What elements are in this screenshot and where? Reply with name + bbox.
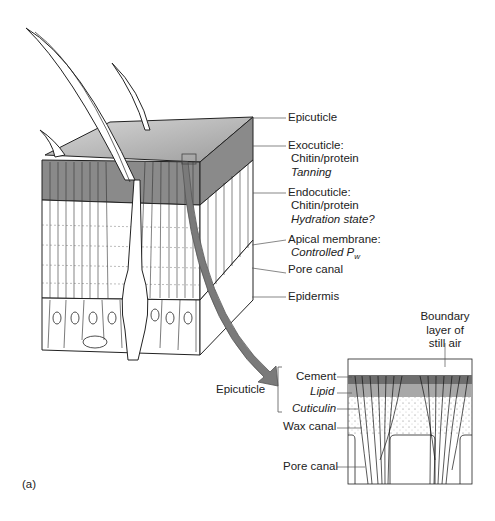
figure-label: (a) (22, 478, 36, 492)
cuticle-diagram (0, 0, 495, 521)
label-inset-pore-canal: Pore canal (283, 460, 338, 474)
label-exocuticle-composition: Chitin/protein (291, 152, 359, 166)
label-apical-membrane-property: Controlled Pw (291, 246, 360, 264)
label-exocuticle-title: Exocuticle: (288, 139, 344, 153)
label-endocuticle-composition: Chitin/protein (291, 199, 359, 213)
label-exocuticle-property: Tanning (291, 166, 332, 180)
label-cement: Cement (296, 370, 336, 384)
label-endocuticle-title: Endocuticle: (288, 186, 351, 200)
label-endocuticle-property: Hydration state? (291, 213, 375, 227)
label-epidermis: Epidermis (288, 290, 339, 304)
label-pore-canal: Pore canal (288, 263, 343, 277)
label-boundary-layer: Boundary layer of still air (415, 310, 475, 351)
label-wax-canal: Wax canal (283, 420, 336, 434)
label-cuticulin: Cuticulin (292, 402, 336, 416)
label-lipid: Lipid (310, 385, 334, 399)
label-epicuticle: Epicuticle (288, 111, 337, 125)
label-epicuticle-bracket: Epicuticle (216, 383, 265, 397)
label-apical-membrane-title: Apical membrane: (288, 233, 381, 247)
